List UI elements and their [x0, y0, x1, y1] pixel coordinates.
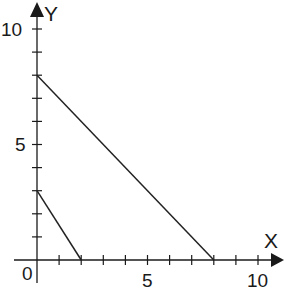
y-tick-label-5: 5 [15, 135, 26, 154]
x-tick-label-10: 10 [247, 271, 268, 290]
y-tick-label-10: 10 [1, 20, 22, 39]
y-axis-arrow-icon [30, 2, 44, 17]
line-2 [37, 191, 81, 260]
x-axis-label: X [264, 230, 278, 251]
x-tick-label-5: 5 [142, 271, 153, 290]
y-axis-label: Y [44, 3, 58, 24]
x-axis-arrow-icon [271, 253, 284, 267]
chart-canvas [0, 0, 284, 300]
data-series [37, 75, 214, 260]
origin-label: 0 [22, 264, 33, 283]
